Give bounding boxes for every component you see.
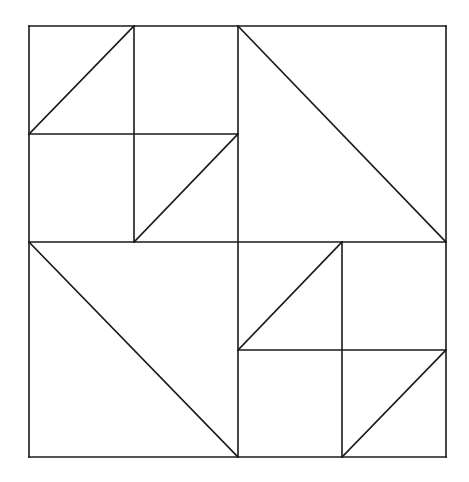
figure-background xyxy=(0,0,469,482)
geometric-figure-canvas xyxy=(0,0,469,482)
